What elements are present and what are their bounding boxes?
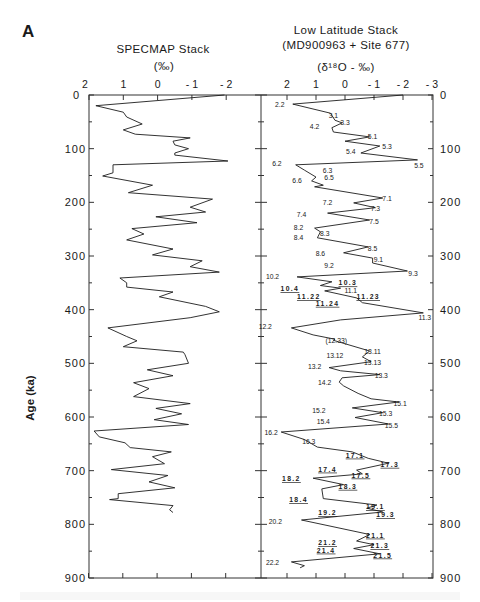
stage-label: 19.2 (318, 509, 337, 516)
stage-label: 10.2 (266, 273, 279, 280)
stage-label: 17.5 (351, 472, 370, 479)
stage-label: 15.1 (393, 400, 406, 407)
y-tick-label-left: 500 (65, 357, 86, 369)
x-tick-labels: 210- 1- 2210- 1- 2- 3 (82, 78, 438, 90)
stage-label: 22.2 (266, 559, 279, 566)
y-tick-label-right: 100 (440, 143, 461, 155)
stage-label: 18.2 (282, 475, 301, 482)
stage-label: 19.3 (376, 511, 395, 518)
stage-label: 15.5 (385, 422, 398, 429)
caption-fragment (20, 592, 460, 600)
stage-label: 2.2 (275, 101, 285, 108)
stage-label: 7.1 (382, 195, 392, 202)
stage-label: 5.4 (346, 148, 356, 155)
stage-label: 21.2 (318, 539, 337, 546)
stage-label: 10.4 (280, 285, 299, 292)
stage-label: 20.2 (269, 518, 282, 525)
y-tick-label-right: 900 (440, 572, 461, 584)
y-tick-label-left: 700 (65, 465, 86, 477)
stage-label: 12.2 (259, 323, 272, 330)
stage-label: 7.2 (323, 199, 333, 206)
right-panel-title-line2: (MD900963 + Site 677) (282, 39, 410, 51)
stage-label: 14.2 (318, 379, 331, 386)
figure-canvas: A SPECMAP Stack (‰) Low Latitude Stack (… (0, 0, 480, 602)
stage-label: 8.6 (316, 250, 326, 257)
y-tick-label-left: 400 (65, 304, 86, 316)
stage-label: 4.2 (310, 123, 320, 130)
stage-label: 6.5 (324, 174, 334, 181)
stage-label: 13.12 (326, 352, 343, 359)
stage-label: 11.23 (356, 293, 380, 300)
stage-label: 16.2 (264, 429, 277, 436)
x-tick-label: - 3 (426, 78, 438, 90)
y-tick-label-left: 900 (65, 572, 86, 584)
x-tick-label: 2 (82, 78, 88, 90)
y-tick-label-right: 200 (440, 196, 461, 208)
left-panel-units: (‰) (154, 60, 174, 72)
y-tick-label-right: 600 (440, 411, 461, 423)
y-tick-label-right: 800 (440, 518, 461, 530)
x-tick-label: 1 (120, 78, 126, 90)
stage-label: 5.3 (382, 143, 392, 150)
stage-label: 21.4 (317, 547, 336, 554)
stage-label: 18.4 (289, 496, 308, 503)
stage-label: 8.5 (368, 245, 378, 252)
y-tick-label-left: 800 (65, 518, 86, 530)
y-tick-label-left: 600 (65, 411, 86, 423)
stage-label: 15.4 (317, 418, 330, 425)
stage-label: 8.3 (320, 230, 330, 237)
stage-label: 3.1 (329, 112, 339, 119)
left-panel-title: SPECMAP Stack (116, 43, 209, 55)
stage-label: 6.2 (272, 160, 282, 167)
stage-label: 8.4 (294, 234, 304, 241)
stage-label: 17.4 (318, 466, 337, 473)
stage-label: 13.3 (375, 372, 388, 379)
x-tick-label: 0 (342, 78, 348, 90)
x-tick-label: - 1 (368, 78, 380, 90)
stage-label: (12.33) (326, 337, 348, 345)
x-tick-label: 2 (284, 78, 290, 90)
stage-label: 10.3 (338, 279, 357, 286)
y-tick-label-left: 200 (65, 196, 86, 208)
stage-label: 3.3 (340, 119, 350, 126)
stage-annotations: 2.23.13.34.25.15.35.45.56.26.36.56.67.17… (259, 101, 432, 566)
stage-label: 21.5 (373, 552, 392, 559)
stage-label: 7.3 (371, 205, 381, 212)
stage-label: 19.1 (366, 503, 385, 510)
panel-letter: A (22, 22, 34, 41)
x-tick-label: - 1 (186, 78, 198, 90)
stage-label: 18.3 (338, 483, 357, 490)
x-tick-label: 1 (313, 78, 319, 90)
y-tick-label-left: 300 (65, 250, 86, 262)
stage-label: 9.2 (324, 262, 334, 269)
stage-label: 9.3 (408, 270, 418, 277)
x-tick-label: - 2 (397, 78, 409, 90)
stage-label: 21.1 (366, 532, 385, 539)
y-tick-label-left: 0 (73, 89, 80, 101)
stage-label: 7.4 (297, 211, 307, 218)
y-tick-label-right: 700 (440, 465, 461, 477)
right-panel-units: (δ¹⁸O - ‰) (317, 61, 374, 73)
y-tick-label-left: 100 (65, 143, 86, 155)
stage-label: 13.2 (308, 363, 321, 370)
specmap-curve (94, 95, 228, 513)
stage-label: 6.6 (292, 177, 302, 184)
y-axis-label: Age (ka) (24, 375, 36, 421)
x-tick-label: - 2 (220, 78, 232, 90)
stage-label: 13.13 (364, 359, 381, 366)
stage-label: 13.11 (364, 348, 381, 355)
y-tick-label-right: 0 (440, 89, 447, 101)
y-tick-label-right: 400 (440, 304, 461, 316)
stage-label: 11.24 (316, 300, 340, 307)
stage-label: 16.3 (302, 438, 315, 445)
stage-label: 11.3 (418, 314, 431, 321)
stage-label: 7.5 (369, 218, 379, 225)
right-panel-title-line1: Low Latitude Stack (294, 24, 398, 36)
y-tick-label-right: 300 (440, 250, 461, 262)
stage-label: 5.1 (368, 133, 378, 140)
x-tick-label: 0 (155, 78, 161, 90)
stage-label: 17.1 (346, 452, 365, 459)
stage-label: 5.5 (414, 162, 424, 169)
stage-label: 9.1 (374, 256, 384, 263)
stage-label: 15.3 (379, 410, 392, 417)
